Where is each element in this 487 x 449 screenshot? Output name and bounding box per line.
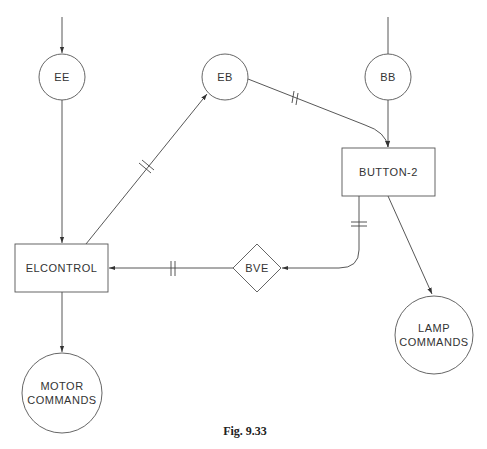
node-elcontrol-label: ELCONTROL	[26, 262, 98, 274]
node-bve: BVE	[233, 244, 281, 292]
node-ee-label: EE	[54, 71, 70, 83]
node-elcontrol: ELCONTROL	[15, 244, 108, 292]
edge-button2-bve	[282, 196, 367, 268]
node-bve-label: BVE	[245, 262, 269, 274]
edge-eb-button2	[248, 79, 388, 147]
node-eb: EB	[202, 54, 248, 100]
node-motor-commands: MOTOR COMMANDS	[22, 353, 102, 433]
node-lamp-label-line2: COMMANDS	[399, 336, 468, 348]
node-eb-label: EB	[217, 71, 233, 83]
node-motor-label-line2: COMMANDS	[27, 394, 96, 406]
node-motor-label-line1: MOTOR	[40, 380, 83, 392]
figure-caption: Fig. 9.33	[223, 424, 267, 438]
node-lamp-label-line1: LAMP	[418, 322, 450, 334]
edge-elcontrol-eb	[86, 94, 207, 244]
edge-button2-lamp	[388, 196, 432, 294]
diagram-canvas: EE EB BB BUTTON-2 ELCONTROL BVE MOTOR CO…	[0, 0, 487, 449]
edge-bve-elcontrol	[109, 261, 233, 276]
node-bb-label: BB	[380, 71, 396, 83]
node-lamp-commands: LAMP COMMANDS	[395, 296, 473, 374]
node-ee: EE	[39, 54, 85, 100]
node-button2-label: BUTTON-2	[359, 166, 418, 178]
node-button2: BUTTON-2	[342, 148, 435, 196]
node-bb: BB	[365, 54, 411, 100]
